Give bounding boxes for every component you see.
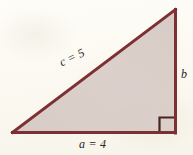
right-triangle-figure: c = 5 a = 4 b (0, 0, 193, 155)
leg-right-label: b (181, 68, 187, 80)
triangle-svg (0, 0, 193, 155)
leg-bottom-label: a = 4 (79, 138, 106, 150)
